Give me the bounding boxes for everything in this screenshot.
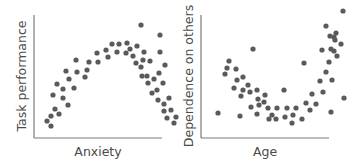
scatter-point [48,113,53,118]
right-scatter-points [215,8,346,125]
scatter-point [84,67,89,72]
scatter-point [319,47,324,52]
scatter-point [154,87,159,92]
scatter-point [233,66,238,71]
scatter-point [56,111,61,116]
scatter-point [114,49,119,54]
right-chart: Age Dependence on others [181,5,347,159]
scatter-point [301,60,306,65]
scatter-point [157,32,162,37]
scatter-point [248,104,253,109]
scatter-point [215,110,220,115]
scatter-point [164,115,169,120]
scatter-point [290,112,295,117]
scatter-point [282,114,287,119]
scatter-point [313,101,318,106]
scatter-point [320,89,325,94]
scatter-point [309,91,314,96]
scatter-point [145,80,150,85]
scatter-point [334,53,339,58]
scatter-point [134,43,139,48]
scatter-point [274,105,279,110]
scatter-point [245,82,250,87]
scatter-point [123,50,128,55]
scatter-point [140,57,145,62]
scatter-point [173,114,178,119]
scatter-point [139,73,144,78]
scatter-point [74,69,79,74]
scatter-point [303,100,308,105]
scatter-point [147,58,152,63]
scatter-point [329,77,334,82]
scatter-point [151,76,156,81]
scatter-point [71,85,76,90]
scatter-point [254,111,259,116]
scatter-point [157,49,162,54]
scatter-point [224,65,229,70]
scatter-point [149,90,154,95]
scatter-point [299,116,304,121]
scatter-point [331,48,336,53]
scatter-point [332,37,337,42]
scatter-point [261,99,266,104]
scatter-point [162,62,167,67]
scatter-point [341,95,346,100]
scatter-point [265,105,270,110]
scatter-point [66,76,71,81]
scatter-point [116,41,121,46]
scatter-point [234,77,239,82]
scatter-point [138,22,143,27]
scatter-point [328,109,333,114]
scatter-point [254,87,259,92]
left-y-label: Task performance [14,20,29,132]
scatter-point [65,102,70,107]
scatter-point [103,47,108,52]
scatter-point [82,74,87,79]
scatter-point [338,41,343,46]
scatter-point [269,112,274,117]
scatter-point [240,87,245,92]
scatter-point [293,105,298,110]
scatter-point [133,60,138,65]
scatter-point [340,8,345,13]
scatter-point [160,80,165,85]
right-x-label: Age [253,144,277,159]
scatter-point [63,68,68,73]
scatter-point [323,23,328,28]
scatter-point [247,89,252,94]
scatter-point [250,46,255,51]
scatter-point [317,78,322,83]
scatter-point [222,71,227,76]
scatter-point [256,102,261,107]
scatter-point [54,81,59,86]
scatter-point [86,59,91,64]
scatter-point [105,54,110,59]
scatter-point [94,50,99,55]
scatter-point [95,59,100,64]
scatter-point [255,96,260,101]
left-chart: Anxiety Task performance [14,15,179,159]
figure: Anxiety Task performance Age Dependence … [0,0,363,167]
scatter-point [238,93,243,98]
scatter-point [44,118,49,123]
scatter-point [109,41,114,46]
scatter-point [141,49,146,54]
scatter-point [155,97,160,102]
left-x-label: Anxiety [74,144,122,159]
scatter-point [168,107,173,112]
scatter-point [237,113,242,118]
scatter-point [161,101,166,106]
scatter-point [156,70,161,75]
scatter-point [144,73,149,78]
right-y-label: Dependence on others [181,5,196,147]
scatter-point [323,69,328,74]
scatter-point [73,57,78,62]
scatter-point [52,106,57,111]
scatter-point [284,105,289,110]
scatter-point [60,86,65,91]
scatter-point [166,95,171,100]
scatter-point [326,59,331,64]
scatter-point [226,58,231,63]
scatter-point [273,116,278,121]
scatter-point [231,85,236,90]
